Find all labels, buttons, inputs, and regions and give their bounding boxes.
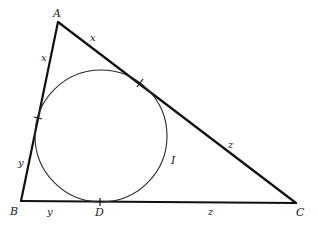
segment-label-bf: y — [17, 157, 24, 168]
segment-label-ce: z — [227, 139, 234, 150]
side-ac — [58, 22, 296, 203]
segment-label-cd: z — [207, 206, 214, 217]
incircle-label-i: I — [170, 154, 176, 167]
side-bc — [21, 201, 296, 203]
segment-label-af: x — [41, 52, 47, 63]
vertex-label-b: B — [9, 205, 18, 218]
tangent-label-d: D — [94, 206, 104, 219]
vertex-label-a: A — [52, 7, 61, 20]
vertex-label-c: C — [296, 206, 305, 219]
segment-label-ae: x — [90, 32, 96, 43]
segment-label-bd: y — [46, 206, 53, 217]
incircle-triangle-diagram: A B C D I x x y y z z — [0, 0, 318, 226]
